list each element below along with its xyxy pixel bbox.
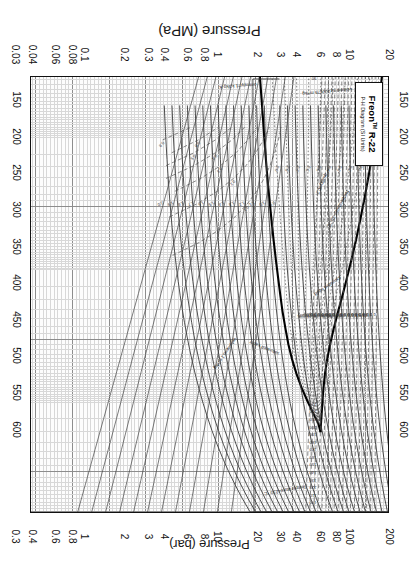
axis-tick-label: 0.8 [198, 41, 209, 69]
axis-tick-label: 200 [11, 121, 22, 151]
axis-tick-label: 1 [79, 523, 90, 551]
axis-tick-label: 10 [211, 523, 222, 551]
axis-tick-label: 6 [182, 523, 193, 551]
isochor-vapor-0.8 [163, 127, 192, 140]
axis-tick-label: 0.6 [182, 41, 193, 69]
product-label: Freon [367, 96, 378, 122]
quality-label-0.6: 0.6 [305, 165, 312, 173]
rotated-diagram-canvas: Pressure (MPa) Pressure (bar) Enthalpy (… [0, 0, 419, 570]
axis-tick-label: 0.04 [26, 41, 37, 69]
axis-tick-label: 250 [11, 158, 22, 188]
quality-label-0.2: 0.2 [346, 165, 353, 173]
axis-tick-label: 8 [331, 41, 342, 69]
axis-tick-label: 2 [251, 41, 262, 69]
axis-tick-label: 400 [398, 268, 409, 298]
isochor-vapor-label-0.6: 0.6 [193, 141, 201, 149]
isotherm-lead-label: Temperature=230 °C [263, 484, 306, 496]
axis-tick-label: 4 [291, 41, 302, 69]
axis-tick-label: 0.6 [50, 523, 61, 551]
diagram-page: Pressure (MPa) Pressure (bar) Enthalpy (… [0, 0, 419, 570]
quality-label-0.4: 0.4 [326, 165, 333, 173]
isotherm-140C [234, 105, 317, 512]
axis-tick-label: 0.08 [66, 41, 77, 69]
axis-tick-label: 3 [274, 41, 285, 69]
axis-tick-label: 400 [11, 268, 22, 298]
title-block: FreonTM R-22 P-H Diagram (SI Units) [355, 82, 383, 166]
isotherm-label-120: 120 [309, 485, 317, 490]
isentrope-lead-label: entropy=1 kJ/kg·K [218, 82, 256, 90]
quality-label-0.5: 0.5 [315, 165, 322, 173]
axis-tick-label: 250 [398, 158, 409, 188]
plot-area: saturated liquidsaturated vapor230220210… [30, 76, 389, 513]
grade-label: R-22 [367, 132, 378, 153]
pressure-bar-tick-rail: 2001008060403020108643210.80.60.40.30.20… [30, 512, 389, 554]
axis-tick-label: 6 [314, 41, 325, 69]
axis-tick-label: 0.2 [119, 41, 130, 69]
axis-tick-label: 1 [211, 41, 222, 69]
axis-tick-label: 4 [159, 523, 170, 551]
axis-tick-label: 300 [398, 194, 409, 224]
isochor-vapor-label-0.8: 0.8 [158, 141, 166, 149]
isentrope-2 [78, 76, 199, 512]
axis-tick-label: 10 [344, 41, 355, 69]
diagram-subtitle: P-H Diagram (SI Units) [360, 96, 366, 153]
axis-tick-label: 200 [384, 523, 395, 551]
axis-tick-label: 500 [11, 341, 22, 371]
axis-tick-label: 0.06 [50, 41, 61, 69]
quality-label-0.3: 0.3 [336, 165, 343, 173]
isotherm-label-170: 170 [309, 447, 317, 452]
axis-tick-label: 0.8 [66, 523, 77, 551]
axis-tick-label: 200 [398, 121, 409, 151]
quality-label-0.7: 0.7 [294, 165, 301, 173]
axis-tick-label: 150 [398, 84, 409, 114]
isentrope-label-2: 2.0 [156, 200, 164, 207]
axis-tick-label: 300 [11, 194, 22, 224]
axis-tick-label: 0.3 [10, 523, 21, 551]
axis-tick-label: 20 [384, 41, 395, 69]
axis-tick-label: 150 [11, 84, 22, 114]
isentrope-1.8 [106, 76, 217, 512]
trademark-mark: TM [372, 122, 378, 129]
axis-tick-label: 30 [274, 523, 285, 551]
axis-tick-label: 450 [11, 304, 22, 334]
isentrope-1.4 [162, 76, 251, 512]
isotherm--40C [372, 105, 389, 512]
enthalpy-right-tick-rail: 150200250300350400450500550600 [2, 76, 30, 513]
axis-tick-label: 2 [119, 523, 130, 551]
isotherm-label-90: 90 [311, 76, 316, 81]
axis-tick-label: 0.4 [159, 41, 170, 69]
axis-tick-label: 500 [398, 341, 409, 371]
axis-tick-label: 350 [398, 231, 409, 261]
axis-tick-label: 80 [331, 523, 342, 551]
isotherm-label-160: 160 [309, 455, 317, 460]
axis-tick-label: 550 [398, 378, 409, 408]
axis-tick-label: 550 [11, 378, 22, 408]
curve-layer: saturated liquidsaturated vapor230220210… [30, 76, 388, 512]
quality-line-0.8 [284, 76, 319, 423]
isentrope-0.9 [231, 76, 294, 512]
isotherm-label-210: 210 [309, 417, 317, 422]
isentrope-1.6 [134, 76, 234, 512]
product-name: FreonTM R-22 [367, 96, 378, 153]
isochor-liquid-0.000775 [326, 76, 339, 512]
isentrope-1.2 [189, 76, 268, 512]
axis-tick-label: 20 [251, 523, 262, 551]
axis-tick-label: 0.1 [79, 41, 90, 69]
axis-tick-label: 60 [314, 523, 325, 551]
axis-tick-label: 3 [142, 523, 153, 551]
isentrope-1.9 [92, 76, 208, 512]
axis-tick-label: 450 [398, 304, 409, 334]
isentrope-1.1 [203, 76, 277, 512]
axis-tick-label: 0.03 [10, 41, 21, 69]
enthalpy-left-tick-rail: 150200250300350400450500550600 [389, 76, 417, 513]
axis-tick-label: 8 [198, 523, 209, 551]
quality-label-0.8: 0.8 [284, 165, 291, 173]
isochor-liquid-lead-label: volume=0.000675 m³/kg [302, 87, 352, 96]
axis-tick-label: 600 [398, 414, 409, 444]
axis-tick-label: 350 [11, 231, 22, 261]
axis-tick-label: 600 [11, 414, 22, 444]
pressure-mpa-tick-rail: 20108643210.80.60.40.30.20.10.080.060.04… [30, 34, 389, 76]
quality-label-0.9: 0.9 [273, 165, 280, 173]
axis-tick-label: 100 [344, 523, 355, 551]
axis-tick-label: 0.3 [142, 41, 153, 69]
